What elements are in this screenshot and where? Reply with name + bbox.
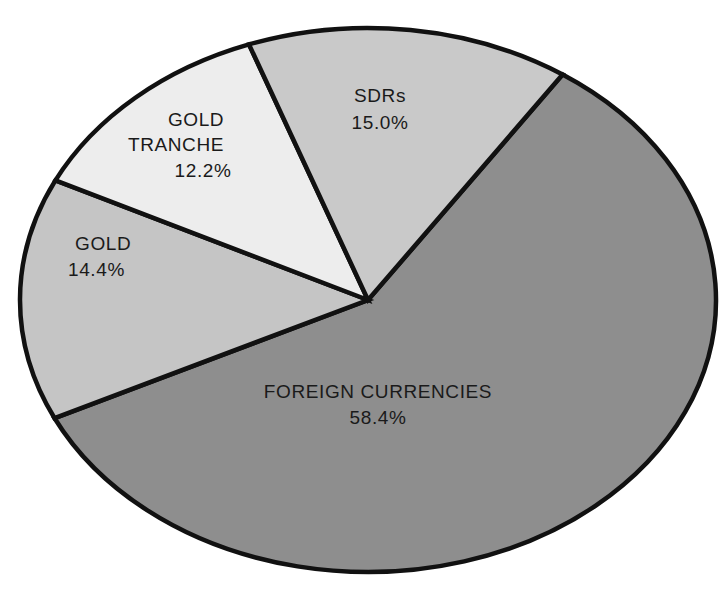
slice-value-gold: 14.4% bbox=[68, 259, 125, 280]
slice-value-gold-tranche: 12.2% bbox=[175, 160, 232, 181]
slice-value-foreign-currencies: 58.4% bbox=[350, 407, 407, 428]
pie-chart-svg: FOREIGN CURRENCIES58.4%GOLD14.4%GOLDTRAN… bbox=[0, 0, 722, 591]
slice-label-foreign-currencies: FOREIGN CURRENCIES bbox=[264, 381, 492, 402]
slice-value-sdrs: 15.0% bbox=[352, 112, 409, 133]
slice-label-gold: GOLD bbox=[75, 233, 131, 254]
slice-label-sdrs: SDRs bbox=[354, 85, 406, 106]
slice-label-gold-tranche: GOLD bbox=[168, 109, 224, 130]
slice-label-gold-tranche-line2: TRANCHE bbox=[128, 134, 224, 155]
pie-chart-figure: FOREIGN CURRENCIES58.4%GOLD14.4%GOLDTRAN… bbox=[0, 0, 722, 591]
pie-slice-layer bbox=[20, 28, 716, 572]
